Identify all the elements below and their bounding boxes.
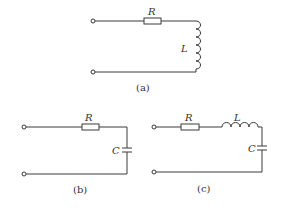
circuit-diagrams: R L (a) R C (b) R L C (c) <box>0 0 281 209</box>
resistor <box>181 124 199 130</box>
resistor-label: R <box>184 112 193 123</box>
caption: (b) <box>73 184 87 195</box>
terminal-bottom <box>22 172 26 176</box>
terminal-top <box>22 125 26 129</box>
inductor <box>222 123 258 128</box>
caption: (a) <box>136 82 150 93</box>
circuit-c: R L C (c) <box>152 112 267 194</box>
inductor <box>196 21 201 72</box>
resistor <box>144 18 161 24</box>
circuit-b: R C (b) <box>22 112 132 195</box>
resistor-label: R <box>147 6 156 17</box>
capacitor-label: C <box>112 145 120 156</box>
inductor-label: L <box>180 43 188 54</box>
capacitor-label: C <box>248 143 256 154</box>
inductor-label: L <box>233 112 241 123</box>
circuit-a: R L (a) <box>91 6 201 93</box>
terminal-top <box>152 125 156 129</box>
resistor-label: R <box>84 112 93 123</box>
caption: (c) <box>197 183 211 194</box>
terminal-bottom <box>152 170 156 174</box>
terminal-bottom <box>91 70 95 74</box>
resistor <box>82 124 99 130</box>
terminal-top <box>91 19 95 23</box>
